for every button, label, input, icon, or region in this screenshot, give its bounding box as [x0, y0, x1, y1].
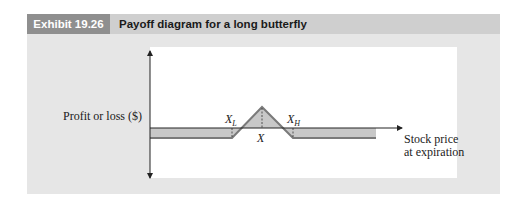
loss-region-right: [283, 128, 376, 138]
strike-high-label: XH: [286, 112, 301, 128]
profit-region: [242, 107, 283, 128]
strike-low-label: XL: [224, 112, 237, 128]
loss-region-left: [150, 128, 242, 138]
x-axis-label-line2: at expiration: [404, 145, 464, 159]
strike-mid-label: X: [256, 131, 265, 145]
x-axis-label-line1: Stock price: [404, 132, 458, 146]
payoff-diagram: Profit or loss ($) Stock price at expira…: [0, 0, 530, 207]
y-axis-label: Profit or loss ($): [63, 109, 142, 123]
